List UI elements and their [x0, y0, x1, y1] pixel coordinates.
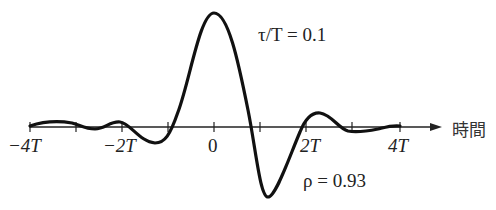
chart-plot-area [0, 0, 496, 210]
tick-label-4t: 4T [388, 135, 408, 157]
tick-label-zero: 0 [208, 135, 218, 157]
annotation-rho: ρ = 0.93 [303, 170, 366, 192]
x-axis-arrow-icon [430, 123, 442, 131]
tick-label-minus-2t: −2T [103, 135, 136, 157]
tick-label-minus-4t: −4T [8, 135, 41, 157]
x-axis-label: 時間 [452, 116, 486, 141]
annotation-tau: τ/T = 0.1 [258, 24, 326, 46]
tick-label-2t: 2T [300, 135, 320, 157]
